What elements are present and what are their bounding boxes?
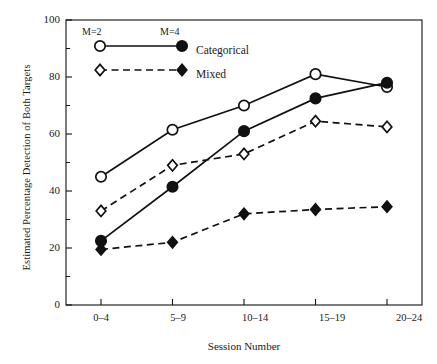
legend-marker-filled xyxy=(177,41,187,51)
data-point xyxy=(382,78,392,88)
plot-frame xyxy=(66,20,422,305)
legend-key-1 xyxy=(95,64,187,75)
chart-figure: Estimated Percentage Detection of Both T… xyxy=(0,0,437,364)
series-3 xyxy=(96,201,392,255)
data-point xyxy=(382,201,392,212)
data-point xyxy=(96,205,106,216)
legend-marker-open xyxy=(95,64,105,75)
data-point xyxy=(382,121,392,132)
data-point xyxy=(239,208,249,219)
data-point xyxy=(168,160,178,171)
legend-marker-filled xyxy=(177,64,187,75)
legend-marker-open xyxy=(95,41,105,51)
data-point xyxy=(310,69,320,79)
data-point xyxy=(96,172,106,182)
data-point xyxy=(310,93,320,103)
data-point xyxy=(239,126,249,136)
data-point xyxy=(167,125,177,135)
data-point xyxy=(311,204,321,215)
data-point xyxy=(239,100,249,110)
legend-key-0 xyxy=(95,41,187,51)
plot-canvas xyxy=(0,0,437,364)
data-point xyxy=(239,148,249,159)
data-point xyxy=(311,116,321,127)
data-point xyxy=(168,237,178,248)
data-point xyxy=(167,182,177,192)
